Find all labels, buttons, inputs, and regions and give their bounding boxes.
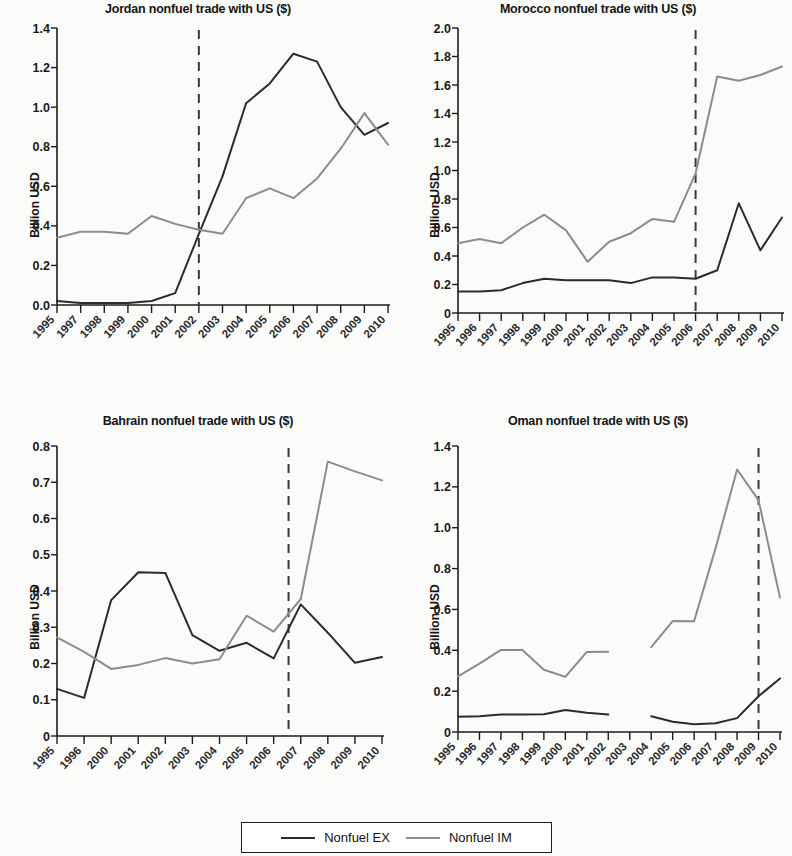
- x-tick-label: 2008: [314, 313, 341, 340]
- x-tick-label: 2000: [539, 740, 565, 767]
- x-tick-label: 2003: [603, 740, 629, 767]
- y-tick-label: 0.2: [33, 259, 50, 273]
- x-tick-label: 1999: [517, 740, 543, 767]
- y-tick-label: 1.2: [33, 61, 50, 75]
- x-tick-label: 2002: [581, 740, 607, 767]
- series-line: [458, 710, 608, 717]
- y-tick-label: 1.6: [434, 79, 451, 93]
- y-tick-label: 2.0: [434, 22, 451, 36]
- chart-panel-morocco: Morocco nonfuel trade with US ($) Billio…: [396, 0, 792, 410]
- x-tick-label: 2002: [139, 744, 165, 771]
- x-tick-label: 2001: [560, 740, 587, 767]
- series-line: [651, 679, 780, 725]
- x-tick-label: 1995: [30, 313, 57, 340]
- x-tick-label: 2007: [689, 740, 715, 767]
- legend-label: Nonfuel IM: [449, 830, 512, 845]
- series-line: [651, 470, 780, 648]
- x-tick-label: 2010: [755, 321, 781, 348]
- y-tick-label: 0.0: [33, 299, 50, 313]
- x-tick-label: 1996: [453, 740, 479, 767]
- x-tick-label: 2004: [626, 321, 653, 348]
- x-tick-label: 2003: [196, 313, 222, 340]
- x-tick-label: 2009: [328, 744, 354, 771]
- x-tick-label: 1995: [30, 744, 57, 771]
- y-tick-label: 0.2: [434, 685, 451, 699]
- x-tick-label: 2009: [734, 321, 760, 348]
- x-tick-label: 1999: [518, 321, 544, 348]
- x-tick-label: 1998: [496, 740, 523, 767]
- x-tick-label: 2002: [172, 313, 198, 340]
- chart-panel-bahrain: Bahrain nonfuel trade with US ($) Billio…: [0, 412, 396, 822]
- x-tick-label: 1998: [78, 313, 105, 340]
- x-tick-label: 2003: [166, 744, 192, 771]
- x-tick-label: 2008: [712, 321, 739, 348]
- x-tick-label: 1996: [453, 321, 479, 348]
- y-tick-label: 0.5: [33, 548, 50, 562]
- x-tick-label: 2007: [690, 321, 716, 348]
- x-tick-label: 2008: [710, 740, 737, 767]
- x-tick-label: 2009: [732, 740, 758, 767]
- x-tick-label: 2005: [647, 321, 674, 348]
- y-tick-label: 0: [444, 307, 451, 321]
- y-tick-label: 1.2: [434, 136, 451, 150]
- x-tick-label: 2007: [274, 744, 300, 771]
- y-tick-label: 1.8: [434, 50, 451, 64]
- y-tick-label: 0.6: [33, 512, 50, 526]
- y-tick-label: 1.4: [33, 22, 50, 36]
- series-line: [57, 572, 382, 698]
- x-tick-label: 2005: [243, 313, 270, 340]
- figure-root: Jordan nonfuel trade with US ($) Billion…: [0, 0, 792, 856]
- x-tick-label: 2010: [355, 744, 381, 771]
- series-line: [458, 203, 782, 291]
- series-line: [458, 650, 608, 677]
- y-tick-label: 0.6: [434, 221, 451, 235]
- chart-panel-oman: Oman nonfuel trade with US ($) Billion U…: [396, 412, 792, 822]
- x-tick-label: 2007: [290, 313, 316, 340]
- x-tick-label: 2008: [301, 744, 328, 771]
- x-tick-label: 1997: [474, 321, 500, 348]
- y-tick-label: 1.0: [434, 164, 451, 178]
- x-tick-label: 1998: [496, 321, 523, 348]
- y-tick-label: 0.7: [33, 476, 50, 490]
- x-tick-label: 2004: [193, 744, 220, 771]
- y-tick-label: 0.3: [33, 621, 50, 635]
- plot-area: 0.00.20.40.60.81.01.21.41995199719981999…: [0, 0, 396, 410]
- x-tick-label: 2006: [667, 740, 693, 767]
- x-tick-label: 2004: [219, 313, 246, 340]
- x-tick-label: 2009: [338, 313, 364, 340]
- x-tick-label: 2002: [582, 321, 608, 348]
- y-tick-label: 1.0: [33, 101, 50, 115]
- y-tick-label: 0.8: [434, 562, 451, 576]
- legend-item-nonfuel-ex: Nonfuel EX: [281, 830, 390, 845]
- y-tick-label: 0.2: [33, 657, 50, 671]
- y-tick-label: 1.4: [434, 107, 451, 121]
- chart-legend: Nonfuel EX Nonfuel IM: [241, 822, 552, 853]
- x-tick-label: 1996: [57, 744, 83, 771]
- plot-area: 00.20.40.60.81.01.21.41.61.82.0199519961…: [396, 0, 792, 410]
- y-tick-label: 0.1: [33, 693, 50, 707]
- x-tick-label: 2005: [646, 740, 673, 767]
- x-tick-label: 2006: [267, 313, 293, 340]
- x-tick-label: 1999: [101, 313, 127, 340]
- legend-line-icon: [281, 837, 315, 839]
- x-tick-label: 1995: [431, 321, 458, 348]
- y-tick-label: 0.8: [434, 193, 451, 207]
- y-tick-label: 0: [444, 726, 451, 740]
- series-line: [458, 67, 782, 262]
- y-tick-label: 0.4: [434, 644, 451, 658]
- x-tick-label: 2001: [148, 313, 175, 340]
- y-tick-label: 0.8: [33, 140, 50, 154]
- x-tick-label: 2001: [561, 321, 588, 348]
- x-tick-label: 2001: [111, 744, 138, 771]
- y-tick-label: 0.4: [434, 250, 451, 264]
- x-tick-label: 2000: [125, 313, 151, 340]
- x-tick-label: 2005: [220, 744, 247, 771]
- y-tick-label: 1.0: [434, 521, 451, 535]
- y-tick-label: 0.6: [33, 180, 50, 194]
- chart-panel-jordan: Jordan nonfuel trade with US ($) Billion…: [0, 0, 396, 410]
- x-tick-label: 2004: [624, 740, 651, 767]
- y-tick-label: 0.2: [434, 278, 451, 292]
- x-tick-label: 2003: [604, 321, 630, 348]
- plot-area: 00.20.40.60.81.01.21.4199519961997199819…: [396, 412, 792, 822]
- y-tick-label: 0.6: [434, 603, 451, 617]
